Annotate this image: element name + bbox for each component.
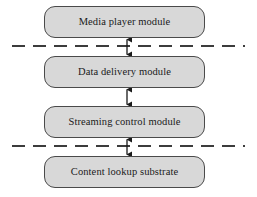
module-box-data-delivery: Data delivery module (44, 56, 205, 88)
module-label-streaming-control: Streaming control module (68, 117, 180, 128)
module-box-content-lookup: Content lookup substrate (44, 156, 205, 188)
module-box-streaming-control: Streaming control module (44, 106, 205, 138)
module-label-data-delivery: Data delivery module (78, 67, 171, 78)
module-label-media-player: Media player module (79, 17, 171, 28)
layered-architecture-diagram: Media player module Data delivery module… (0, 0, 257, 197)
module-label-content-lookup: Content lookup substrate (71, 167, 178, 178)
module-box-media-player: Media player module (44, 6, 205, 38)
